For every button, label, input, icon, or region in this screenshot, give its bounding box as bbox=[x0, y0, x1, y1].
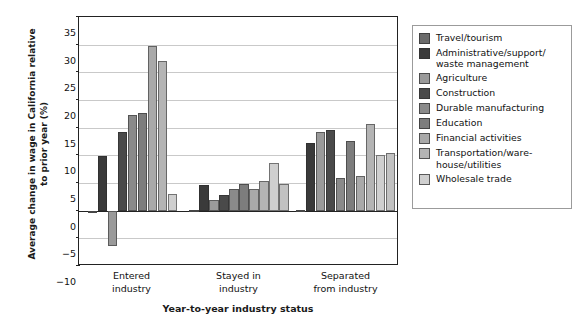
legend-swatch-icon bbox=[419, 88, 430, 99]
legend-item[interactable]: Construction bbox=[419, 87, 566, 99]
x-group-label-1: Stayed inindustry bbox=[185, 270, 292, 295]
gridline bbox=[79, 100, 397, 101]
bar bbox=[118, 132, 128, 211]
bar bbox=[239, 184, 249, 211]
zero-line bbox=[79, 211, 397, 212]
bar bbox=[259, 181, 269, 210]
bar bbox=[346, 141, 356, 211]
bar bbox=[376, 155, 386, 211]
y-tick-label: −10 bbox=[50, 276, 76, 287]
x-group-label-line: industry bbox=[219, 283, 258, 294]
legend: Travel/tourismAdministrative/support/was… bbox=[412, 25, 572, 209]
legend-label: Wholesale trade bbox=[436, 173, 512, 184]
bar bbox=[199, 185, 209, 210]
bar bbox=[189, 210, 199, 212]
y-tick-label: 15 bbox=[50, 137, 76, 148]
bar bbox=[158, 61, 168, 210]
bar bbox=[326, 130, 336, 210]
y-tick-label: 5 bbox=[50, 193, 76, 204]
bar bbox=[316, 132, 326, 211]
gridline bbox=[79, 238, 397, 239]
legend-swatch-icon bbox=[419, 133, 430, 144]
legend-label-line2: waste management bbox=[436, 58, 529, 69]
legend-item[interactable]: Wholesale trade bbox=[419, 173, 566, 185]
gridline bbox=[79, 72, 397, 73]
legend-item[interactable]: Education bbox=[419, 117, 566, 129]
x-group-label-line: Entered bbox=[113, 270, 150, 281]
legend-label: Construction bbox=[436, 87, 495, 98]
y-tick-label: 20 bbox=[50, 110, 76, 121]
legend-swatch-icon bbox=[419, 118, 430, 129]
y-tick-label: 35 bbox=[50, 27, 76, 38]
x-group-label-line: industry bbox=[112, 283, 151, 294]
legend-item[interactable]: Administrative/support/waste management bbox=[419, 47, 566, 69]
bar bbox=[279, 184, 289, 211]
bar bbox=[219, 195, 229, 210]
legend-item[interactable]: Durable manufacturing bbox=[419, 102, 566, 114]
x-group-label-2: Separatedfrom industry bbox=[292, 270, 399, 295]
bar bbox=[128, 115, 138, 211]
bar bbox=[138, 113, 148, 211]
legend-label: Travel/tourism bbox=[436, 32, 502, 43]
x-group-label-line: Separated bbox=[321, 270, 370, 281]
bar bbox=[366, 124, 376, 211]
x-axis-title: Year-to-year industry status bbox=[78, 303, 398, 314]
y-tick-label: 30 bbox=[50, 54, 76, 65]
legend-label: Durable manufacturing bbox=[436, 102, 544, 113]
legend-label: Agriculture bbox=[436, 72, 487, 83]
legend-swatch-icon bbox=[419, 48, 430, 59]
bar bbox=[209, 200, 219, 211]
legend-swatch-icon bbox=[419, 33, 430, 44]
bar bbox=[108, 211, 118, 246]
legend-item[interactable]: Transportation/ware-house/utilities bbox=[419, 147, 566, 169]
bar bbox=[386, 153, 396, 211]
legend-label: Financial activities bbox=[436, 132, 522, 143]
legend-swatch-icon bbox=[419, 148, 430, 159]
legend-item[interactable]: Financial activities bbox=[419, 132, 566, 144]
bar-chart-figure: Average change in wage in California rel… bbox=[0, 0, 581, 326]
legend-label: Transportation/ware-house/utilities bbox=[436, 147, 532, 169]
plot-area bbox=[78, 16, 398, 265]
x-group-label-0: Enteredindustry bbox=[78, 270, 185, 295]
gridline bbox=[79, 45, 397, 46]
y-tick-label: 10 bbox=[50, 165, 76, 176]
y-tick-label: −5 bbox=[50, 248, 76, 259]
x-group-label-line: Stayed in bbox=[216, 270, 261, 281]
legend-item[interactable]: Agriculture bbox=[419, 72, 566, 84]
bar bbox=[296, 210, 306, 212]
legend-label: Education bbox=[436, 117, 482, 128]
y-tick-label: 25 bbox=[50, 82, 76, 93]
legend-swatch-icon bbox=[419, 174, 430, 185]
x-group-label-line: from industry bbox=[313, 283, 377, 294]
y-axis-ticks: −10−505101520253035 bbox=[46, 16, 76, 265]
legend-label: Administrative/support/waste management bbox=[436, 47, 546, 69]
legend-item[interactable]: Travel/tourism bbox=[419, 32, 566, 44]
legend-swatch-icon bbox=[419, 103, 430, 114]
bar bbox=[249, 189, 259, 211]
y-tick-label: 0 bbox=[50, 220, 76, 231]
legend-label-line2: house/utilities bbox=[436, 159, 501, 170]
bar bbox=[306, 143, 316, 211]
legend-swatch-icon bbox=[419, 73, 430, 84]
bar bbox=[148, 46, 158, 210]
bar bbox=[269, 163, 279, 211]
bar bbox=[356, 176, 366, 210]
y-tick-mark bbox=[76, 265, 80, 266]
y-axis-title-line1: Average change in wage in California rel… bbox=[27, 28, 37, 259]
bar bbox=[336, 178, 346, 211]
bar bbox=[229, 189, 239, 211]
bar bbox=[168, 194, 178, 211]
bar bbox=[98, 156, 108, 211]
bar bbox=[88, 211, 98, 214]
